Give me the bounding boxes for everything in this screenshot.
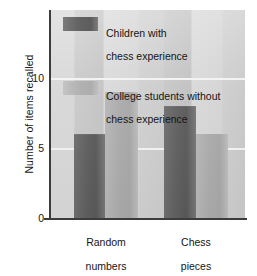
x-tick-random-numbers-line2: numbers <box>56 260 156 272</box>
legend-item-college: College students without chess experienc… <box>63 80 248 138</box>
legend-label-children: Children with chess experience <box>106 16 188 74</box>
legend-label-children-line1: Children with <box>106 28 188 40</box>
legend-label-college-line1: College students without <box>106 91 220 103</box>
legend-item-children: Children with chess experience <box>63 16 248 74</box>
x-tick-random-numbers-line1: Random <box>56 236 156 248</box>
x-tick-label-random-numbers: Random numbers <box>56 224 156 276</box>
legend-label-college-line2: chess experience <box>106 114 220 126</box>
legend-label-college: College students without chess experienc… <box>106 80 220 138</box>
legend-swatch-dark-gray-icon <box>63 17 98 31</box>
y-tick-label-5: 5 <box>10 143 44 154</box>
legend-swatch-light-gray-icon <box>63 81 98 95</box>
bar-random-numbers-children <box>74 134 105 218</box>
y-tick-label-0: 0 <box>10 213 44 224</box>
x-tick-label-chess-pieces: Chess pieces <box>146 224 246 276</box>
y-axis-ticks: 10 5 0 <box>8 0 44 255</box>
x-axis-line <box>44 218 247 220</box>
bar-chess-pieces-college <box>196 134 228 218</box>
x-tick-chess-pieces-line2: pieces <box>146 260 246 272</box>
legend-label-children-line2: chess experience <box>106 51 188 63</box>
x-tick-chess-pieces-line1: Chess <box>146 236 246 248</box>
y-axis-line <box>49 10 51 219</box>
legend: Children with chess experience College s… <box>63 16 248 143</box>
y-tick-label-10: 10 <box>10 73 44 84</box>
